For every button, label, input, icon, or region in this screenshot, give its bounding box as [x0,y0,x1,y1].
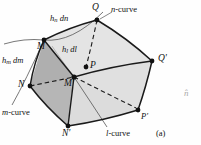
vertex-dot-N [28,84,33,89]
vertex-label-P: P [90,61,96,71]
curve-label-l-curve: l-curve [106,129,130,138]
vertex-dot-Q [95,18,100,23]
vertex-dot-Pp [136,108,141,113]
edge-label-hn-diff: dn [60,13,69,23]
figure-caption: (a) [156,129,165,138]
edge-label-hm-dm: hm dm [2,56,23,66]
vertex-dot-P [84,65,89,70]
curve-label-m-curve: m-curve [2,108,30,117]
vertex-label-N-prime: N' [62,129,70,139]
curve-label-n-curve: n-curve [111,5,137,14]
edge-label-hl-dl: hl dl [62,45,77,55]
curve-label-m-text: -curve [8,107,30,117]
vertex-label-P-prime: P' [141,112,148,121]
edge-label-hn-dn: hn dn [50,14,68,24]
n-hat-margin-mark: n̂ [184,88,189,98]
vertex-label-Q-prime: Q' [158,54,167,64]
curve-label-l-text: -curve [108,128,130,138]
edge-label-hl-diff: dl [70,44,77,54]
vertex-label-M: M [37,42,45,52]
figure-container: Q M Q' P N M' P' N' hn dn hl dl hm dm n-… [0,0,201,145]
vertex-label-N: N [18,80,24,90]
vertex-dot-Qp [150,59,155,64]
edge-label-hm-sub: m [6,58,11,65]
curve-label-n-text: -curve [115,4,137,14]
edge-label-hn-sub: n [54,16,57,23]
figure-svg [0,0,201,145]
edge-label-hm-diff: dm [13,55,23,65]
edge-label-hl-sub: l [66,47,68,54]
vertex-label-Q: Q [92,3,99,13]
vertex-label-M-prime: M' [64,79,74,89]
